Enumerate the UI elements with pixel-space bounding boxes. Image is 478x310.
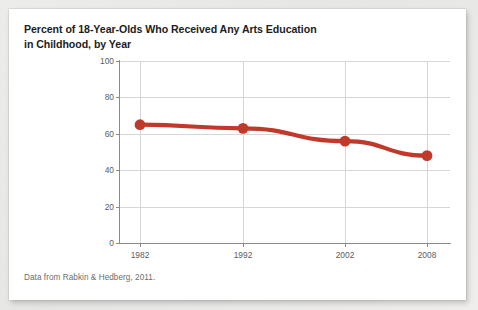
plot-wrapper: 020406080100 1982199220022008 (9, 9, 466, 300)
source-footnote: Data from Rabkin & Hedberg, 2011. (24, 273, 155, 282)
x-axis-tick-mark (140, 243, 141, 247)
chart-card: Percent of 18-Year-Olds Who Received Any… (9, 9, 466, 300)
plot-area: 020406080100 1982199220022008 (120, 61, 450, 243)
y-axis-tick-label: 100 (100, 56, 114, 66)
y-axis-tick-mark (116, 243, 120, 244)
y-axis-tick-label: 0 (109, 238, 114, 248)
y-axis-tick-label: 80 (105, 92, 114, 102)
x-axis-tick-label: 2008 (418, 250, 437, 260)
data-point-marker (238, 123, 249, 134)
data-point-marker (422, 150, 433, 161)
x-axis-tick-mark (345, 243, 346, 247)
data-series-line (120, 61, 450, 243)
x-axis-tick-mark (427, 243, 428, 247)
x-axis-tick-mark (243, 243, 244, 247)
x-axis-tick-label: 1982 (131, 250, 150, 260)
chart-screenshot: Percent of 18-Year-Olds Who Received Any… (0, 0, 478, 310)
series-line-0 (140, 125, 427, 156)
data-point-marker (135, 119, 146, 130)
y-axis-tick-label: 20 (105, 202, 114, 212)
y-axis-tick-label: 60 (105, 129, 114, 139)
x-axis-tick-label: 2002 (336, 250, 355, 260)
data-point-marker (340, 136, 351, 147)
y-axis-tick-label: 40 (105, 165, 114, 175)
x-axis-tick-label: 1992 (234, 250, 253, 260)
x-axis-line (119, 243, 451, 244)
